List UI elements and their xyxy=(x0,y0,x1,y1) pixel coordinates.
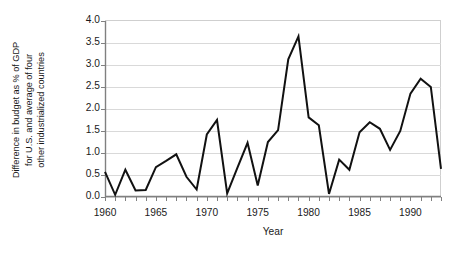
y-axis-tick-label: 3.5 xyxy=(58,36,100,48)
y-axis-title-line-2: for U.S. and average of four xyxy=(23,10,36,210)
y-axis-title-line-3: other industrialized countries xyxy=(35,10,48,210)
x-axis-title: Year xyxy=(105,226,441,237)
y-axis-title: Difference in budget as % of GDP for U.S… xyxy=(10,10,54,210)
x-axis-tick-label: 1965 xyxy=(134,206,178,219)
y-axis-tick-labels: 0.00.51.01.52.02.53.03.54.0 xyxy=(58,14,100,202)
x-axis-tick-label: 1970 xyxy=(185,206,229,219)
y-axis-tick-label: 3.0 xyxy=(58,58,100,70)
y-axis-tick-label: 2.0 xyxy=(58,102,100,114)
x-axis-tick-label: 1980 xyxy=(287,206,331,219)
x-axis-tick-label: 1960 xyxy=(83,206,127,219)
y-axis-tick-label: 4.0 xyxy=(58,14,100,26)
y-axis-tick-label: 1.5 xyxy=(58,124,100,136)
y-axis-tick-label: 2.5 xyxy=(58,80,100,92)
data-line-svg xyxy=(105,21,441,197)
plot-area xyxy=(105,20,441,196)
x-axis-tick-labels: 1960196519701975198019851990 xyxy=(105,206,441,222)
y-axis-title-line-1: Difference in budget as % of GDP xyxy=(10,10,23,210)
data-series-line xyxy=(105,36,441,194)
x-axis-tick-label: 1985 xyxy=(338,206,382,219)
x-axis-tick-label: 1990 xyxy=(388,206,432,219)
budget-gdp-difference-line-chart: Difference in budget as % of GDP for U.S… xyxy=(0,0,458,257)
y-axis-tick-label: 0.5 xyxy=(58,168,100,180)
x-axis-tick-label: 1975 xyxy=(236,206,280,219)
y-axis-tick-label: 0.0 xyxy=(58,190,100,202)
y-axis-tick-label: 1.0 xyxy=(58,146,100,158)
